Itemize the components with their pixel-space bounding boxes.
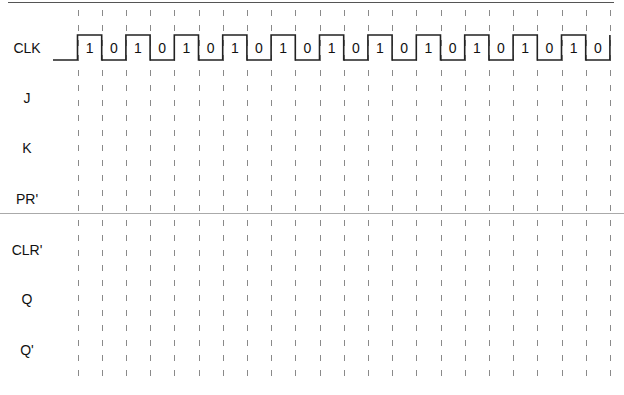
signal-label-j: J xyxy=(24,90,31,106)
clock-level-digit: 1 xyxy=(473,40,481,56)
signal-label-k: K xyxy=(22,140,31,156)
clock-level-digit: 1 xyxy=(279,40,287,56)
signal-label-clr: CLR' xyxy=(12,242,43,258)
clock-level-digit: 1 xyxy=(183,40,191,56)
clock-level-digit: 1 xyxy=(425,40,433,56)
clock-level-digit: 0 xyxy=(594,40,602,56)
clock-level-digit: 0 xyxy=(255,40,263,56)
clock-level-digit: 0 xyxy=(110,40,118,56)
clock-level-digit: 0 xyxy=(400,40,408,56)
clock-level-digit: 0 xyxy=(497,40,505,56)
signal-label-clk: CLK xyxy=(13,40,40,56)
clock-level-digit: 0 xyxy=(352,40,360,56)
signal-label-q-bar: Q' xyxy=(20,342,34,358)
clock-level-digit: 1 xyxy=(231,40,239,56)
timing-diagram: 1010101010101010101010 xyxy=(0,0,624,395)
clock-level-digit: 1 xyxy=(376,40,384,56)
clock-level-digit: 0 xyxy=(449,40,457,56)
clock-level-digit: 1 xyxy=(570,40,578,56)
clock-level-digit: 0 xyxy=(158,40,166,56)
clock-level-digit: 0 xyxy=(207,40,215,56)
clock-level-digit: 0 xyxy=(546,40,554,56)
clock-level-digit: 1 xyxy=(86,40,94,56)
clock-level-digit: 1 xyxy=(328,40,336,56)
clock-level-digit: 0 xyxy=(304,40,312,56)
time-gridlines xyxy=(79,10,611,385)
signal-label-q: Q xyxy=(22,291,33,307)
signal-label-pr: PR' xyxy=(16,191,38,207)
clock-level-digit: 1 xyxy=(521,40,529,56)
clock-level-digit: 1 xyxy=(134,40,142,56)
